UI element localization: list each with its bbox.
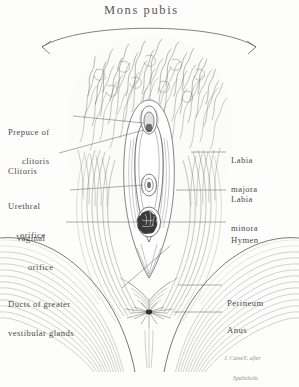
label-line-1: Anus	[227, 326, 247, 336]
attribution: J. Cassell, after Spalteholz.	[224, 342, 261, 387]
label-hymen: Hymen	[231, 217, 259, 265]
label-ducts-of-greater-vestibular-glands: Ducts of greater vestibular glands	[8, 281, 74, 358]
perineum-anus-region	[120, 278, 178, 368]
label-line-1: Labia	[231, 156, 258, 166]
page-title: Mons pubis	[104, 3, 179, 18]
vaginal-orifice-group	[137, 207, 160, 237]
label-line-1: Vaginal	[16, 234, 54, 244]
vulva-structures	[124, 100, 175, 278]
attribution-line-2: Spalteholz.	[224, 375, 261, 382]
label-line-1: Hymen	[231, 236, 259, 246]
label-line-1: Urethral	[8, 202, 46, 212]
illustration-canvas: Mons pubis Prepuce of clitoris Clitoris …	[0, 0, 299, 387]
attribution-line-1: J. Cassell, after	[224, 355, 261, 362]
label-line-1: Prepuce of	[8, 128, 50, 138]
label-line-1: Labia	[231, 195, 258, 205]
urethral-orifice-group	[142, 174, 157, 196]
label-line-1: Ducts of greater	[8, 300, 74, 310]
label-line-2: vestibular glands	[8, 329, 74, 339]
label-line-2: orifice	[16, 263, 54, 273]
label-line-1: Clitoris	[8, 167, 37, 177]
anus-group	[125, 300, 173, 328]
